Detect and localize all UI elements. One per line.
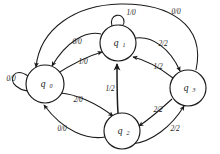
state-subscript-q0: 0: [50, 83, 53, 89]
state-machine-graph: q 0 q 1 q 2 q 3 0/0 1/0 0/0 1/0 2/2 1/2 …: [0, 0, 220, 154]
state-node-q3[interactable]: q 3: [170, 70, 206, 106]
state-label-q2: q: [118, 126, 123, 136]
state-label-q0: q: [41, 79, 46, 89]
edge-label-q1-q0: 0/0: [72, 37, 82, 46]
edge-label-q0-q2: 2/0: [73, 95, 83, 104]
edge-label-q0-q0: 0/0: [6, 74, 16, 83]
edge-q2-q1: [117, 64, 118, 113]
edge-label-q2-q1: 1/2: [105, 84, 115, 93]
state-node-q1[interactable]: q 1: [100, 25, 136, 61]
edge-label-q3-q1: 1/2: [153, 62, 163, 71]
state-label-q1: q: [114, 38, 119, 48]
edge-label-q2-q3: 2/2: [170, 124, 180, 133]
state-subscript-q1: 1: [123, 42, 126, 48]
edge-label-q1-q3: 2/2: [158, 39, 168, 48]
state-node-q0[interactable]: q 0: [26, 65, 64, 103]
state-subscript-q2: 2: [127, 130, 130, 136]
state-label-q3: q: [184, 83, 189, 93]
edge-q0-q2: [60, 93, 113, 116]
edge-label-q3-q2: 2/2: [153, 105, 163, 114]
edge-label-q1-q1: 1/0: [126, 8, 136, 17]
state-diagram-canvas: q 0 q 1 q 2 q 3 0/0 1/0 0/0 1/0 2/2 1/2 …: [0, 0, 220, 154]
edge-q2-q0: [44, 105, 105, 138]
state-subscript-q3: 3: [192, 87, 196, 93]
edge-label-q0-q1: 1/0: [78, 57, 88, 66]
edge-q1-self: [111, 15, 124, 26]
state-node-q2[interactable]: q 2: [104, 113, 140, 149]
edge-label-q2-q0: 0/0: [57, 124, 67, 133]
edge-label-q3-q0: 0/0: [171, 7, 181, 16]
